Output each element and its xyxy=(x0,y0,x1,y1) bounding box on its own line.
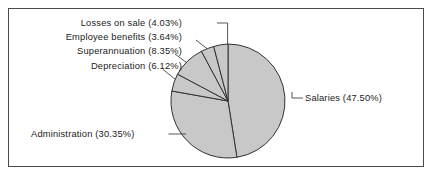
leader-line-employee-benefits xyxy=(196,40,208,49)
pie-label-depreciation: Depreciation (6.12%) xyxy=(91,61,182,72)
leader-line-salaries xyxy=(292,92,303,98)
pie-chart-graphic xyxy=(0,0,435,180)
pie-label-losses-on-sale: Losses on sale (4.03%) xyxy=(81,18,182,29)
pie-label-employee-benefits: Employee benefits (3.64%) xyxy=(66,32,182,43)
pie-label-administration: Administration (30.35%) xyxy=(31,129,135,140)
pie-label-superannuation: Superannuation (8.35%) xyxy=(77,46,182,57)
pie-slices xyxy=(171,44,285,158)
leader-line-losses-on-sale xyxy=(217,23,228,44)
pie-slice-salaries xyxy=(228,44,285,157)
pie-label-salaries: Salaries (47.50%) xyxy=(305,93,382,104)
pie-chart-figure: Losses on sale (4.03%) Employee benefits… xyxy=(0,0,435,180)
